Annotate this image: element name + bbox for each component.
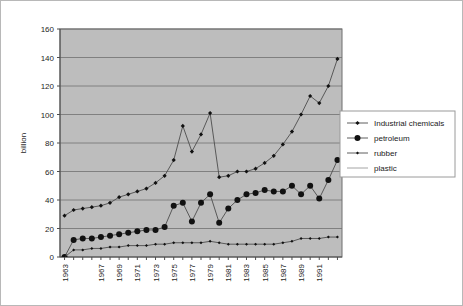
data-point — [153, 227, 159, 233]
legend: Industrial chemicalspetroleumrubberplast… — [340, 111, 455, 177]
legend-label: Industrial chemicals — [374, 119, 444, 128]
x-tick-label: 1973 — [152, 263, 161, 281]
x-tick-label: 1975 — [170, 263, 179, 281]
y-tick-label: 160 — [41, 25, 55, 34]
legend-label: petroleum — [374, 134, 410, 143]
data-point — [98, 234, 104, 240]
data-point — [171, 203, 177, 209]
data-point — [207, 191, 213, 197]
data-point — [243, 191, 249, 197]
data-point — [289, 183, 295, 189]
data-point — [262, 187, 268, 193]
y-tick-label: 0 — [50, 253, 55, 262]
x-tick-label: 1989 — [297, 263, 306, 281]
data-point — [298, 191, 304, 197]
data-point — [271, 188, 277, 194]
data-point — [80, 235, 86, 241]
legend-label: rubber — [374, 149, 397, 158]
legend-label: plastic — [374, 164, 397, 173]
x-tick-label: 1971 — [133, 263, 142, 281]
data-point — [234, 197, 240, 203]
data-point — [143, 227, 149, 233]
y-tick-label: 80 — [45, 139, 54, 148]
chart-svg: 020406080100120140160billion196319671969… — [0, 0, 463, 306]
data-point — [125, 230, 131, 236]
y-tick-label: 60 — [45, 168, 54, 177]
y-tick-label: 40 — [45, 196, 54, 205]
data-point — [116, 231, 122, 237]
x-tick-label: 1979 — [206, 263, 215, 281]
data-point — [89, 235, 95, 241]
x-tick-label: 1963 — [61, 263, 70, 281]
data-point — [134, 228, 140, 234]
data-point — [198, 200, 204, 206]
y-axis-title: billion — [19, 133, 28, 153]
legend-marker — [355, 135, 361, 141]
data-point — [316, 196, 322, 202]
y-tick-label: 140 — [41, 54, 55, 63]
x-axis: 1963196719691971197319751977197919811983… — [60, 257, 342, 282]
x-tick-label: 1977 — [188, 263, 197, 281]
data-point — [307, 183, 313, 189]
y-axis: 020406080100120140160 — [41, 25, 60, 262]
data-point — [253, 190, 259, 196]
chart-page: 020406080100120140160billion196319671969… — [0, 0, 463, 306]
data-point — [280, 188, 286, 194]
x-tick-label: 1967 — [97, 263, 106, 281]
data-point — [180, 200, 186, 206]
y-tick-label: 100 — [41, 111, 55, 120]
data-point — [355, 135, 361, 141]
x-tick-label: 1983 — [242, 263, 251, 281]
x-tick-label: 1981 — [224, 263, 233, 281]
y-tick-label: 120 — [41, 82, 55, 91]
data-point — [107, 233, 113, 239]
data-point — [325, 177, 331, 183]
data-point — [225, 206, 231, 212]
x-tick-label: 1987 — [279, 263, 288, 281]
x-tick-label: 1969 — [115, 263, 124, 281]
data-point — [189, 218, 195, 224]
x-tick-label: 1991 — [315, 263, 324, 281]
data-point — [71, 237, 77, 243]
chart-figure: 020406080100120140160billion196319671969… — [0, 0, 463, 306]
data-point — [162, 224, 168, 230]
data-point — [216, 220, 222, 226]
y-tick-label: 20 — [45, 225, 54, 234]
x-tick-label: 1985 — [261, 263, 270, 281]
